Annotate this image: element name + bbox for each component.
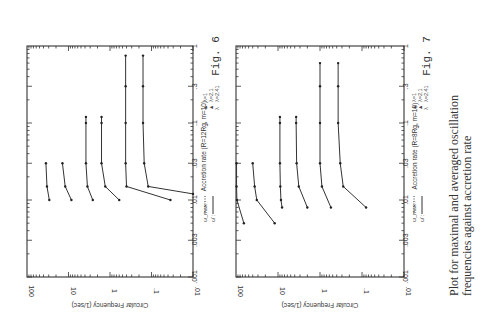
data-point xyxy=(169,199,171,201)
freq-tick-label: .1 xyxy=(153,288,160,294)
accretion-tick-label: .3 xyxy=(402,83,409,89)
data-point xyxy=(306,206,308,208)
data-point xyxy=(330,206,332,208)
data-point xyxy=(365,206,367,208)
data-point xyxy=(252,162,254,164)
legend-style-label: ω̄ : xyxy=(419,214,425,222)
series-line-curve-4 xyxy=(102,117,120,200)
data-point xyxy=(118,199,120,201)
data-point xyxy=(279,122,281,124)
series-line-curve-5 xyxy=(126,56,171,200)
accretion-tick-label: .1 xyxy=(402,120,409,126)
accretion-tick-label: .003 xyxy=(402,233,409,247)
data-point xyxy=(142,85,144,87)
figure-canvas: 100101.1.01.001.003.01.03.1.31Circular F… xyxy=(0,0,493,319)
caption-line-2: frequencies against accretion rate xyxy=(460,136,474,296)
accretion-tick-label: .01 xyxy=(402,195,409,205)
data-point xyxy=(256,199,258,201)
freq-tick-label: 10 xyxy=(279,287,286,295)
data-point xyxy=(86,185,88,187)
freq-tick-label: .1 xyxy=(363,288,370,294)
data-point xyxy=(70,199,72,201)
freq-tick-label: 10 xyxy=(70,287,77,295)
accretion-tick-label: .03 xyxy=(402,158,409,168)
data-point xyxy=(253,185,255,187)
data-point xyxy=(295,122,297,124)
data-point xyxy=(104,185,106,187)
data-point xyxy=(64,185,66,187)
data-point xyxy=(319,85,321,87)
accretion-tick-label: .003 xyxy=(191,233,198,247)
accretion-tick-label: 1 xyxy=(402,44,409,48)
data-point xyxy=(147,185,149,187)
data-point xyxy=(295,162,297,164)
data-point xyxy=(61,162,63,164)
data-point xyxy=(125,185,127,187)
data-point xyxy=(124,54,126,56)
data-point xyxy=(85,122,87,124)
accretion-tick-label: 1 xyxy=(191,44,198,48)
data-point xyxy=(85,162,87,164)
series-line-curve-1 xyxy=(46,163,49,200)
y-axis-label: Circular Frequency (1/sec) xyxy=(282,301,359,309)
data-point xyxy=(337,62,339,64)
fig6-panel: 100101.1.01.001.003.01.03.1.31Circular F… xyxy=(27,36,222,309)
series-line-curve-1 xyxy=(237,163,244,223)
caption: Plot for maximal and averaged oscillatio… xyxy=(447,95,474,296)
legend-lambda-label: λ=2.41 xyxy=(423,85,429,102)
data-point xyxy=(85,116,87,118)
data-point xyxy=(243,222,245,224)
data-point xyxy=(143,162,145,164)
y-axis-label: Circular Frequency (1/sec) xyxy=(72,301,149,309)
data-point xyxy=(279,162,281,164)
data-point xyxy=(298,185,300,187)
data-point xyxy=(235,185,237,187)
data-point xyxy=(339,162,341,164)
series-line-curve-2 xyxy=(62,163,71,200)
accretion-tick-label: .001 xyxy=(402,270,409,284)
legend-marker: λ xyxy=(423,107,429,110)
data-point xyxy=(321,185,323,187)
data-point xyxy=(236,199,238,201)
data-point xyxy=(319,162,321,164)
data-point xyxy=(295,116,297,118)
freq-tick-label: 100 xyxy=(237,285,244,297)
legend-lambda-label: λ=2.41 xyxy=(214,85,220,102)
data-point xyxy=(319,62,321,64)
freq-tick-label: .01 xyxy=(194,286,201,296)
data-point xyxy=(48,199,50,201)
accretion-tick-label: .1 xyxy=(191,120,198,126)
series-line-curve-4 xyxy=(296,117,307,208)
freq-tick-label: 1 xyxy=(111,289,118,293)
fig7-panel: 100101.1.01.001.003.01.03.1.31Circular F… xyxy=(235,36,433,309)
data-point xyxy=(192,193,194,195)
freq-tick-label: 100 xyxy=(28,285,35,297)
data-point xyxy=(273,222,275,224)
plot-frame xyxy=(27,46,193,277)
freq-tick-label: 1 xyxy=(321,289,328,293)
accretion-tick-label: .001 xyxy=(191,270,198,284)
data-point xyxy=(235,162,237,164)
data-point xyxy=(100,116,102,118)
data-point xyxy=(124,122,126,124)
accretion-tick-label: .01 xyxy=(191,195,198,205)
data-point xyxy=(342,185,344,187)
series-line-curve-2 xyxy=(253,163,275,223)
figure-label: Fig. 6 xyxy=(210,36,222,76)
data-point xyxy=(280,199,282,201)
legend-marker: λ xyxy=(214,107,220,110)
data-point xyxy=(124,85,126,87)
accretion-tick-label: .3 xyxy=(191,83,198,89)
data-point xyxy=(100,162,102,164)
data-point xyxy=(46,185,48,187)
accretion-tick-label: .03 xyxy=(191,158,198,168)
data-point xyxy=(279,116,281,118)
data-point xyxy=(100,122,102,124)
x-axis-label: Accretion rate (R=8Rg, m=10) xyxy=(411,103,419,190)
data-point xyxy=(45,162,47,164)
x-axis-label: Accretion rate (R=12Rg, m=10) xyxy=(200,101,208,191)
data-point xyxy=(319,122,321,124)
caption-line-1: Plot for maximal and averaged oscillatio… xyxy=(447,95,461,296)
data-point xyxy=(92,199,94,201)
figure-label: Fig. 7 xyxy=(421,36,433,76)
